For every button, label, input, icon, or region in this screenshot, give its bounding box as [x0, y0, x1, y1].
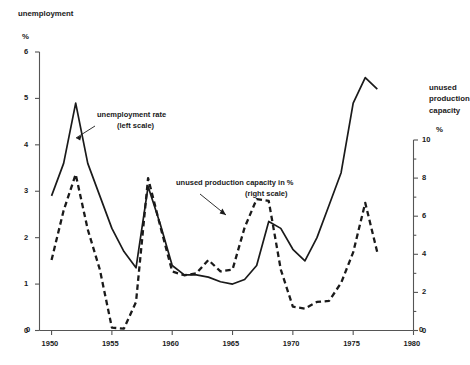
- left-tick-label-4: 4: [24, 140, 28, 149]
- x-tick-label-1960: 1960: [162, 339, 179, 348]
- right-tick-label-4: 4: [422, 249, 426, 258]
- right-tick-label-6: 6: [422, 211, 426, 220]
- x-origin-zero-label: 0: [26, 325, 30, 334]
- right-tick-label-10: 10: [422, 135, 430, 144]
- left-tick-label-6: 6: [24, 47, 28, 56]
- x-tick-label-1980: 1980: [404, 339, 421, 348]
- annotation-leader-lines: [76, 126, 226, 215]
- tick-marks: [35, 52, 418, 335]
- series-paths: [52, 78, 378, 329]
- x-end-zero-label: 0: [419, 325, 423, 334]
- left-tick-label-2: 2: [24, 233, 28, 242]
- x-tick-label-1955: 1955: [102, 339, 119, 348]
- left-tick-label-5: 5: [24, 93, 28, 102]
- left-tick-label-3: 3: [24, 186, 28, 195]
- series-line-1-solid: [52, 78, 378, 285]
- x-tick-label-1975: 1975: [343, 339, 360, 348]
- x-tick-label-1950: 1950: [42, 339, 59, 348]
- x-tick-label-1965: 1965: [223, 339, 240, 348]
- arrowhead-series2: [220, 209, 226, 215]
- left-tick-label-1: 1: [24, 279, 28, 288]
- x-tick-label-1970: 1970: [283, 339, 300, 348]
- right-tick-label-2: 2: [422, 287, 426, 296]
- right-tick-label-8: 8: [422, 173, 426, 182]
- leader-line-series1: [76, 126, 95, 138]
